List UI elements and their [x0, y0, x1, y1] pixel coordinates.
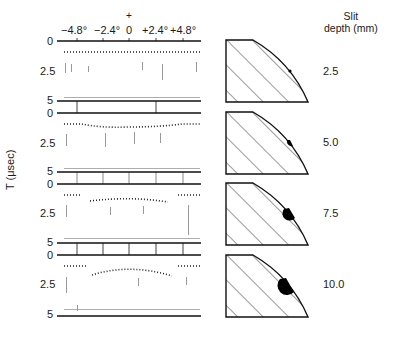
scatter-noise [64, 62, 200, 311]
slit-shape-1 [226, 40, 308, 102]
slit-shape-4 [226, 255, 308, 317]
slit-shape-3 [226, 183, 308, 245]
figure-graphics [0, 0, 400, 338]
slit-shape-2 [226, 112, 308, 174]
